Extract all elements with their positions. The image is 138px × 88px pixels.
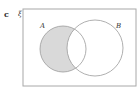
set-a-label: A <box>39 22 45 30</box>
part-label: c <box>4 9 9 19</box>
set-b-label: B <box>115 22 121 30</box>
venn-diagram: c ξ A B <box>0 0 138 88</box>
universal-set-label: ξ <box>18 10 23 18</box>
